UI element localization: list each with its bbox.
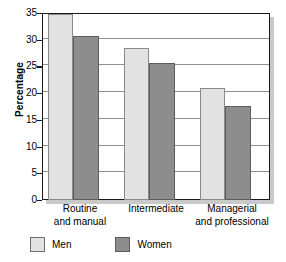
legend-label-women: Women bbox=[137, 239, 171, 250]
men-swatch-icon bbox=[30, 237, 45, 252]
bar-women-2 bbox=[225, 106, 251, 200]
legend-item-men: Men bbox=[30, 237, 71, 252]
y-tick-label: 35 bbox=[9, 8, 37, 18]
women-swatch-icon bbox=[115, 237, 130, 252]
legend-label-men: Men bbox=[52, 239, 71, 250]
y-tick-label: 15 bbox=[9, 115, 37, 125]
y-tick-label: 10 bbox=[9, 142, 37, 152]
y-tick-label: 25 bbox=[9, 61, 37, 71]
y-tick-label: 20 bbox=[9, 88, 37, 98]
bar-women-1 bbox=[149, 63, 175, 200]
bar-men-1 bbox=[124, 48, 150, 200]
bar-men-2 bbox=[200, 88, 226, 200]
y-tick-label: 30 bbox=[9, 35, 37, 45]
bar-men-0 bbox=[48, 14, 74, 200]
bar-women-0 bbox=[73, 36, 99, 200]
x-axis-labels: Routineand manualIntermediateManageriala… bbox=[42, 203, 270, 239]
x-category-label-line: Managerial bbox=[180, 203, 284, 216]
bar-chart: Percentage 05101520253035 Routineand man… bbox=[0, 0, 286, 262]
y-tick-label: 5 bbox=[9, 168, 37, 178]
bars-layer bbox=[42, 13, 270, 200]
x-category-label-line: and manual bbox=[28, 216, 132, 229]
x-category-label-line: and professional bbox=[180, 216, 284, 229]
x-category-label: Managerialand professional bbox=[180, 203, 284, 228]
y-tick-mark bbox=[37, 200, 42, 201]
legend-item-women: Women bbox=[115, 237, 171, 252]
legend: Men Women bbox=[30, 237, 172, 252]
